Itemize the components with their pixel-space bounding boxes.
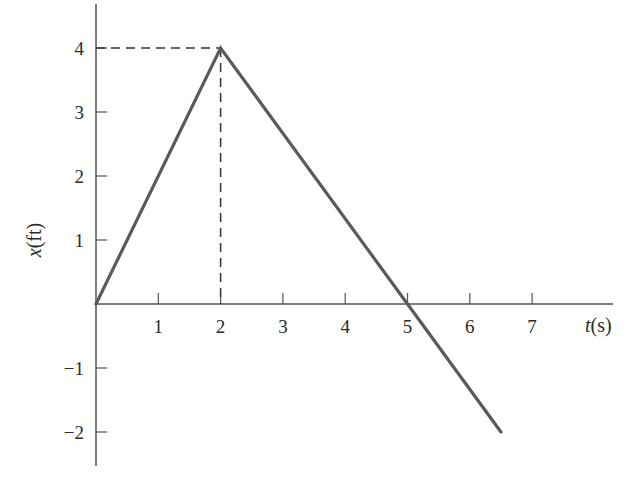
axes	[96, 4, 613, 466]
data-series	[96, 48, 501, 432]
x-tick-label: 3	[278, 316, 288, 337]
y-tick-label: 1	[75, 230, 85, 251]
y-tick-label: 4	[75, 38, 85, 59]
y-axis-label-var: x	[23, 248, 45, 258]
x-tick-label: 2	[216, 316, 226, 337]
position-time-chart: 1234567 4321−1−2 t(s) x(ft)	[0, 0, 642, 491]
x-tick-label: 1	[154, 316, 164, 337]
y-axis-label-unit: (ft)	[23, 223, 46, 249]
x-tick-label: 6	[465, 316, 475, 337]
y-tick-label: −1	[64, 358, 84, 379]
position-line	[96, 48, 501, 432]
y-tick-label: 3	[75, 102, 85, 123]
x-tick-label: 4	[340, 316, 350, 337]
x-tick-label: 5	[403, 316, 413, 337]
x-ticks: 1234567	[154, 293, 537, 337]
y-tick-label: 2	[75, 166, 85, 187]
x-tick-label: 7	[527, 316, 537, 337]
y-tick-label: −2	[64, 422, 84, 443]
y-axis-label: x(ft)	[23, 223, 46, 258]
y-ticks: 4321−1−2	[64, 38, 107, 443]
x-axis-label-unit: (s)	[591, 314, 612, 337]
x-axis-label: t(s)	[585, 314, 612, 337]
